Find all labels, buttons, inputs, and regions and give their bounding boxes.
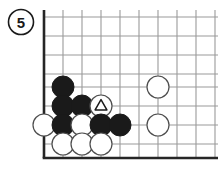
white-stone-disc [147,76,169,98]
black-stone[interactable] [109,114,131,136]
white-stone[interactable] [147,76,169,98]
black-stone-disc [109,114,131,136]
go-board[interactable]: 5 [0,0,218,173]
white-stone[interactable] [90,133,112,155]
white-stone-disc [147,114,169,136]
diagram-number-badge: 5 [9,10,34,35]
badge-number-label: 5 [17,14,25,31]
white-stone-disc [90,133,112,155]
go-diagram-root: 5 [0,0,218,173]
white-stone[interactable] [147,114,169,136]
